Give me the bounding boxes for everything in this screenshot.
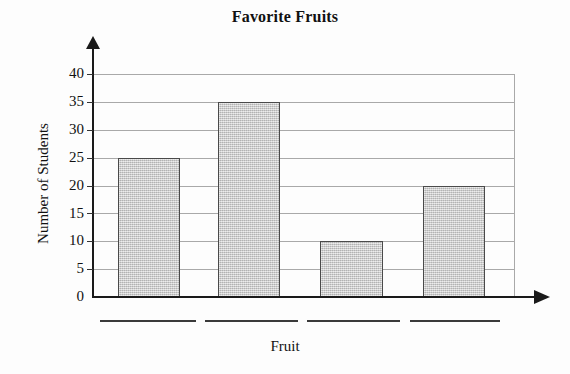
- bar-1: [118, 158, 180, 297]
- chart-title: Favorite Fruits: [0, 8, 570, 26]
- y-axis-arrow-icon: [86, 36, 100, 49]
- y-tick-label-40: 40: [44, 66, 84, 81]
- y-tick-mark-15: [87, 213, 93, 214]
- x-axis-label: Fruit: [0, 338, 570, 355]
- x-axis-arrow-icon: [534, 290, 550, 304]
- x-axis-line: [92, 296, 542, 298]
- gridline-30: [92, 130, 515, 131]
- y-tick-mark-20: [87, 186, 93, 187]
- y-tick-label-0: 0: [44, 289, 84, 304]
- y-tick-mark-40: [87, 74, 93, 75]
- y-tick-mark-30: [87, 130, 93, 131]
- y-tick-label-25: 25: [44, 150, 84, 165]
- y-tick-label-20: 20: [44, 178, 84, 193]
- y-axis-tick-labels: 40 35 30 25 20 15 10 5 0: [40, 0, 84, 374]
- plot-area: [92, 74, 515, 297]
- bar-2: [218, 102, 280, 297]
- gridline-35: [92, 102, 515, 103]
- y-tick-mark-10: [87, 241, 93, 242]
- bar-3: [320, 241, 383, 297]
- y-tick-label-35: 35: [44, 94, 84, 109]
- y-tick-label-10: 10: [44, 233, 84, 248]
- category-blank-3: [307, 320, 400, 322]
- category-blank-2: [205, 320, 298, 322]
- y-tick-label-15: 15: [44, 206, 84, 221]
- y-axis-line: [92, 46, 94, 297]
- y-tick-label-5: 5: [44, 261, 84, 276]
- chart-figure: Favorite Fruits Number of Students 40 35…: [0, 0, 570, 374]
- gridline-40: [92, 74, 515, 75]
- plot-right-border: [514, 74, 515, 297]
- y-tick-mark-25: [87, 158, 93, 159]
- category-blank-4: [410, 320, 500, 322]
- bar-4: [423, 186, 485, 298]
- y-tick-label-30: 30: [44, 122, 84, 137]
- category-blank-1: [100, 320, 196, 322]
- y-tick-mark-35: [87, 102, 93, 103]
- y-tick-mark-5: [87, 269, 93, 270]
